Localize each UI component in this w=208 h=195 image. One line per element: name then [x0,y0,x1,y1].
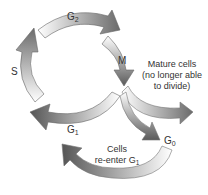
reenter-label: Cells re-enter G1 [95,144,140,166]
svg-text:Mature cells: Mature cells [148,59,197,69]
cell-cycle-diagram: G2 M S G1 G0 Mature cells (no longer abl… [0,0,208,195]
svg-text:re-enter G1: re-enter G1 [95,155,140,166]
g1-arrow [30,92,120,130]
s-arrow [16,28,44,102]
g2-label: G2 [67,11,79,23]
g1-label: G1 [67,124,79,136]
g2-arrow [38,10,120,38]
svg-text:Cells: Cells [107,144,128,154]
g0-label: G0 [164,135,176,147]
mature-cells-label: Mature cells (no longer able to divide) [142,59,202,91]
m-label: M [118,55,126,66]
svg-text:to divide): to divide) [154,81,191,91]
svg-text:(no longer able: (no longer able [142,70,202,80]
s-label: S [11,66,18,77]
